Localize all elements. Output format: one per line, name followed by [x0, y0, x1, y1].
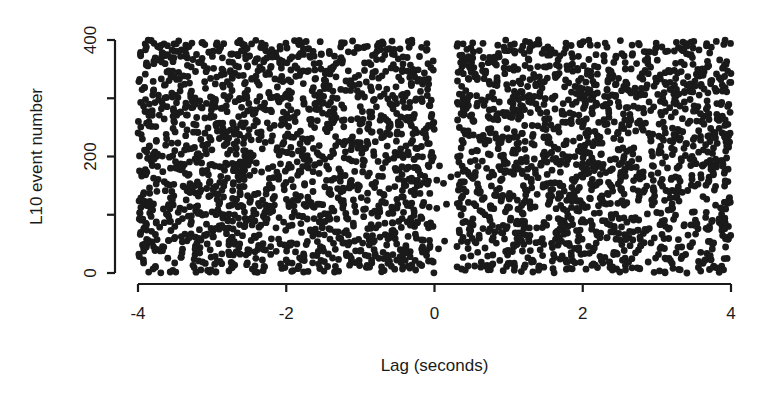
y-axis: 400 200 0 L10 event number — [27, 26, 115, 278]
y-tick-label-200: 200 — [81, 142, 100, 170]
x-tick-label-2: 2 — [578, 304, 587, 323]
x-axis-title: Lag (seconds) — [381, 356, 489, 375]
data-points — [135, 37, 735, 277]
x-axis: -4 -2 0 2 4 Lag (seconds) — [130, 284, 735, 375]
x-tick-label-neg4: -4 — [130, 304, 145, 323]
x-tick-label-4: 4 — [726, 304, 735, 323]
x-tick-label-neg2: -2 — [279, 304, 294, 323]
x-tick-label-0: 0 — [430, 304, 439, 323]
y-axis-title: L10 event number — [27, 88, 46, 225]
y-tick-label-400: 400 — [81, 26, 100, 54]
y-tick-label-0: 0 — [81, 268, 100, 277]
scatter-chart: 400 200 0 L10 event number -4 -2 0 2 4 L… — [0, 0, 757, 394]
